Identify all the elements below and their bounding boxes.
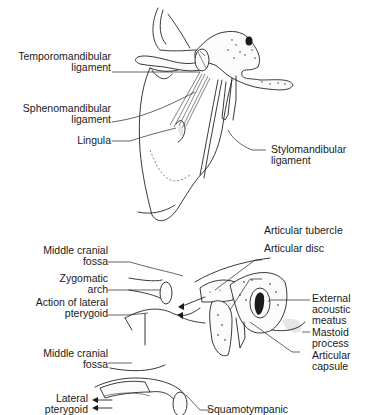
label-lingula: Lingula — [77, 135, 111, 146]
tmj-lateral-drawing — [125, 258, 305, 356]
label-mastoid-process: Mastoid process — [312, 327, 349, 349]
label-middle-cranial-fossa-section: Middle cranial fossa — [43, 348, 108, 370]
label-articular-disc: Articular disc — [264, 243, 324, 254]
label-lateral-pterygoid: Lateral pterygoid — [45, 393, 88, 415]
anatomy-figure: Temporomandibular ligament Sphenomandibu… — [0, 0, 366, 415]
label-zygomatic-arch: Zygomatic arch — [60, 273, 108, 295]
label-stylomandibular-ligament: Stylomandibular ligament — [271, 144, 346, 166]
label-action-of-lateral-pterygoid: Action of lateral pterygoid — [36, 297, 108, 319]
label-temporomandibular-ligament: Temporomandibular ligament — [18, 51, 111, 73]
label-articular-tubercle: Articular tubercle — [264, 225, 343, 236]
label-squamotympanic: Squamotympanic — [207, 404, 288, 415]
label-external-acoustic-meatus: External acoustic meatus — [312, 293, 351, 326]
tmj-section-drawing — [92, 365, 187, 415]
label-articular-capsule: Articular capsule — [312, 350, 351, 372]
label-middle-cranial-fossa: Middle cranial fossa — [43, 245, 108, 267]
mandible-ligaments-drawing — [136, 8, 293, 221]
label-sphenomandibular-ligament: Sphenomandibular ligament — [23, 103, 111, 125]
